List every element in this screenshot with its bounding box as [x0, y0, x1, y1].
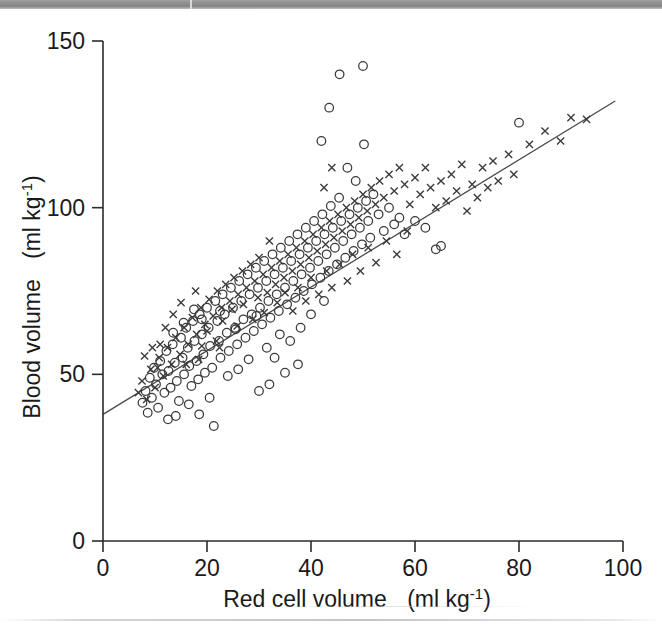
data-point-cross: [557, 137, 564, 144]
data-point-cross: [235, 291, 242, 298]
data-point-cross: [172, 334, 179, 341]
data-point-cross: [162, 324, 169, 331]
data-point-cross: [339, 227, 346, 234]
data-point-circle: [195, 310, 204, 319]
data-point-circle: [421, 223, 430, 232]
x-axis-title-text: Red cell volume: [223, 586, 387, 612]
data-point-cross: [305, 254, 312, 261]
data-point-circle: [343, 163, 352, 172]
y-tick-label-0: 0: [72, 528, 85, 554]
data-point-cross: [302, 297, 309, 304]
data-point-circle: [369, 190, 378, 199]
data-point-circle: [281, 283, 290, 292]
data-point-circle: [272, 290, 281, 299]
data-point-circle: [318, 210, 327, 219]
data-point-circle: [260, 257, 269, 266]
data-point-circle: [270, 353, 279, 362]
data-point-circle: [250, 327, 259, 336]
scatter-plot: 050100150 020406080100 Red cell volume (…: [0, 9, 662, 625]
x-tick-label-20: 20: [194, 555, 220, 581]
data-point-circle: [195, 410, 204, 419]
svg-text:Red cell volume (ml kg: Red cell volume (ml kg-1): [223, 585, 491, 612]
data-point-cross: [437, 177, 444, 184]
data-point-circle: [264, 297, 273, 306]
data-point-circle: [263, 343, 272, 352]
data-point-circle: [210, 422, 219, 431]
data-point-cross: [489, 157, 496, 164]
data-point-circle: [143, 408, 152, 417]
data-point-circle: [235, 277, 244, 286]
data-point-cross: [289, 307, 296, 314]
data-point-cross: [411, 174, 418, 181]
data-point-cross: [213, 337, 220, 344]
data-point-circle: [339, 237, 348, 246]
data-point-cross: [280, 274, 287, 281]
data-point-circle: [285, 237, 294, 246]
data-point-circle: [294, 360, 303, 369]
scan-artifact-faint-line: [240, 606, 540, 607]
data-point-circle: [224, 372, 233, 381]
data-point-cross: [355, 214, 362, 221]
data-point-cross: [393, 251, 400, 258]
data-point-cross: [310, 231, 317, 238]
data-point-cross: [147, 366, 154, 373]
data-point-circle: [331, 243, 340, 252]
data-point-cross: [463, 207, 470, 214]
data-point-circle: [291, 293, 300, 302]
data-point-circle: [266, 313, 275, 322]
data-point-circle: [277, 243, 286, 252]
data-point-cross: [376, 177, 383, 184]
data-point-cross: [422, 164, 429, 171]
data-point-cross: [479, 164, 486, 171]
data-point-cross: [359, 191, 366, 198]
data-point-cross: [406, 201, 413, 208]
x-tick-label-0: 0: [97, 555, 110, 581]
data-point-cross: [380, 194, 387, 201]
data-point-circle: [293, 230, 302, 239]
figure-container: 050100150 020406080100 Red cell volume (…: [0, 9, 662, 625]
data-point-cross: [285, 251, 292, 258]
data-point-circle: [380, 227, 389, 236]
data-point-cross: [254, 294, 261, 301]
x-tick-label-100: 100: [604, 555, 642, 581]
data-point-cross: [505, 151, 512, 158]
data-point-cross: [268, 264, 275, 271]
data-point-circle: [252, 263, 261, 272]
data-point-cross: [198, 342, 205, 349]
series-open-circles: [138, 62, 523, 431]
data-point-circle: [515, 118, 524, 127]
data-point-cross: [315, 291, 322, 298]
data-point-cross: [260, 271, 267, 278]
data-point-cross: [526, 141, 533, 148]
data-point-cross: [293, 244, 300, 251]
regression-line: [103, 101, 615, 414]
x-tick-label-40: 40: [298, 555, 324, 581]
data-point-circle: [268, 250, 277, 259]
data-point-circle: [335, 193, 344, 202]
data-point-circle: [320, 297, 329, 306]
data-point-cross: [401, 181, 408, 188]
data-point-cross: [343, 204, 350, 211]
data-point-cross: [443, 197, 450, 204]
data-point-circle: [225, 347, 234, 356]
data-point-circle: [351, 177, 360, 186]
data-point-cross: [170, 311, 177, 318]
data-point-cross: [176, 351, 183, 358]
data-point-cross: [351, 197, 358, 204]
data-point-cross: [453, 187, 460, 194]
data-point-circle: [255, 387, 264, 396]
data-point-circle: [185, 400, 194, 409]
y-axis-title-text: Blood volume: [19, 279, 45, 418]
regression-line-path: [103, 101, 615, 414]
data-point-cross: [334, 211, 341, 218]
data-point-cross: [541, 127, 548, 134]
data-point-circle: [265, 380, 274, 389]
data-point-circle: [175, 397, 184, 406]
data-point-cross: [226, 297, 233, 304]
data-point-cross: [276, 257, 283, 264]
data-point-circle: [314, 257, 323, 266]
data-point-circle: [297, 270, 306, 279]
data-point-circle: [154, 403, 163, 412]
data-point-cross: [567, 114, 574, 121]
data-point-cross: [495, 177, 502, 184]
